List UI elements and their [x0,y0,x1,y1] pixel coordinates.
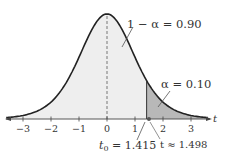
tick-label: −3 [16,123,30,134]
axis-arrow-right-icon [206,117,212,121]
t0-label-leader [137,122,145,140]
tick-label: 3 [188,123,194,134]
center-area-label: 1 − α = 0.90 [127,17,202,31]
non-rejection-region [6,14,146,119]
tick-label: 2 [160,123,166,134]
tick-label: 1 [132,123,138,134]
test-statistic-point [147,117,151,121]
tick-label: −1 [72,123,86,134]
tail-area-label: α = 0.10 [161,77,211,91]
t-distribution-chart: t −3−2−10123 1 − α = 0.90 α = 0.10 t0 = … [0,0,228,158]
tstat-label-leader [150,122,160,139]
tick-label: 0 [104,123,110,134]
tstat-label: t ≈ 1.498 [160,139,207,150]
t0-label: t0 = 1.415 [99,139,156,153]
tick-label: −2 [44,123,58,134]
axis-label-t: t [213,113,218,124]
